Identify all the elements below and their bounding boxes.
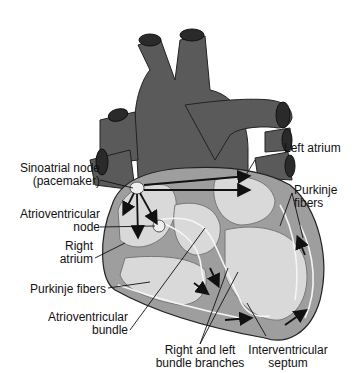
label-bundle-branches: Right and left bundle branches: [150, 344, 250, 370]
label-interventricular-septum: Interventricular septum: [238, 344, 338, 370]
label-av-node: Atrioventricular node: [8, 208, 100, 234]
label-purkinje-fibers-left: Purkinje fibers: [2, 283, 106, 296]
label-av-bundle: Atrioventricular bundle: [30, 311, 128, 337]
label-left-atrium: Left atrium: [284, 142, 341, 155]
label-purkinje-fibers-right: Purkinje fibers: [294, 184, 337, 210]
label-right-atrium: Right atrium: [8, 240, 93, 266]
label-sa-node: Sinoatrial node (pacemaker): [8, 162, 100, 188]
